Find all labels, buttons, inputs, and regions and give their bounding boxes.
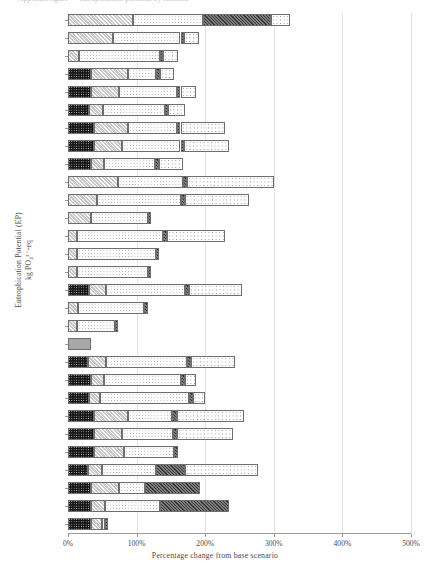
bar-segment-segment-2[interactable] <box>94 122 128 134</box>
bar-segment-segment-3[interactable] <box>91 212 147 224</box>
bar-segment-segment-3[interactable] <box>122 140 180 152</box>
bar-segment-segment-3[interactable] <box>122 428 173 440</box>
bar-segment-segment-2[interactable] <box>91 500 105 512</box>
bar-segment-segment-1[interactable] <box>68 356 88 368</box>
bar-segment-segment-2[interactable] <box>89 284 107 296</box>
bar-segment-segment-5[interactable] <box>184 32 199 44</box>
bar-segment-segment-2[interactable] <box>91 158 105 170</box>
bar-segment-segment-2[interactable] <box>91 518 102 530</box>
bar-segment-segment-3[interactable] <box>128 410 173 422</box>
bar-segment-segment-3[interactable] <box>100 392 189 404</box>
bar-segment-segment-1[interactable] <box>68 464 88 476</box>
bar-segment-segment-3[interactable] <box>104 158 155 170</box>
bar-segment-segment-4[interactable] <box>156 464 184 476</box>
bar-segment-segment-2[interactable] <box>91 374 105 386</box>
bar-segment-segment-3[interactable] <box>124 446 174 458</box>
bar-segment-segment-3[interactable] <box>104 374 181 386</box>
bar-segment-segment-5[interactable] <box>185 464 258 476</box>
bar-segment-segment-4[interactable] <box>156 248 159 260</box>
bar-segment-segment-5[interactable] <box>187 176 275 188</box>
bar-segment-segment-2[interactable] <box>94 140 122 152</box>
bar-segment-segment-3[interactable] <box>106 284 185 296</box>
bar-segment-segment-2[interactable] <box>68 266 77 278</box>
bar-segment-segment-2[interactable] <box>68 14 133 26</box>
bar-segment-single[interactable] <box>68 338 91 350</box>
bar-segment-segment-2[interactable] <box>94 410 128 422</box>
bar-segment-segment-2[interactable] <box>68 32 113 44</box>
bar-segment-segment-3[interactable] <box>106 356 187 368</box>
bar-segment-segment-3[interactable] <box>77 320 115 332</box>
bar-segment-segment-5[interactable] <box>159 158 183 170</box>
bar-segment-segment-1[interactable] <box>68 140 94 152</box>
bar-segment-segment-5[interactable] <box>168 104 184 116</box>
bar-segment-segment-3[interactable] <box>128 122 177 134</box>
bar-segment-segment-3[interactable] <box>78 302 144 314</box>
bar-segment-segment-3[interactable] <box>77 248 156 260</box>
bar-segment-segment-1[interactable] <box>68 446 94 458</box>
bar-segment-segment-1[interactable] <box>68 428 94 440</box>
bar-segment-segment-3[interactable] <box>113 32 180 44</box>
bar-segment-segment-2[interactable] <box>91 86 119 98</box>
bar-segment-segment-1[interactable] <box>68 500 91 512</box>
bar-segment-segment-3[interactable] <box>133 14 203 26</box>
bar-segment-segment-2[interactable] <box>89 104 103 116</box>
bar-segment-segment-4[interactable] <box>203 14 271 26</box>
bar-segment-segment-3[interactable] <box>102 464 157 476</box>
bar-segment-segment-5[interactable] <box>193 392 205 404</box>
bar-segment-segment-5[interactable] <box>271 14 290 26</box>
bar-segment-segment-2[interactable] <box>88 356 107 368</box>
bar-segment-segment-3[interactable] <box>77 266 148 278</box>
bar-segment-segment-4[interactable] <box>148 212 151 224</box>
bar-segment-segment-1[interactable] <box>68 392 89 404</box>
bar-segment-segment-3[interactable] <box>119 482 145 494</box>
bar-segment-segment-2[interactable] <box>68 176 118 188</box>
bar-segment-segment-2[interactable] <box>68 194 97 206</box>
bar-segment-segment-2[interactable] <box>88 464 102 476</box>
bar-segment-segment-2[interactable] <box>68 248 77 260</box>
bar-segment-segment-4[interactable] <box>115 320 118 332</box>
bar-segment-segment-1[interactable] <box>68 284 89 296</box>
bar-segment-segment-1[interactable] <box>68 86 91 98</box>
bar-segment-segment-5[interactable] <box>177 410 244 422</box>
bar-segment-segment-1[interactable] <box>68 374 91 386</box>
bar-segment-segment-5[interactable] <box>181 86 197 98</box>
bar-segment-segment-5[interactable] <box>184 140 229 152</box>
bar-segment-segment-5[interactable] <box>160 68 174 80</box>
bar-segment-segment-2[interactable] <box>68 230 77 242</box>
bar-segment-segment-2[interactable] <box>89 392 101 404</box>
bar-segment-segment-3[interactable] <box>97 194 181 206</box>
bar-segment-segment-4[interactable] <box>144 302 147 314</box>
bar-segment-segment-3[interactable] <box>128 68 157 80</box>
bar-segment-segment-5[interactable] <box>177 428 233 440</box>
bar-segment-segment-4[interactable] <box>174 446 177 458</box>
bar-segment-segment-5[interactable] <box>185 194 249 206</box>
bar-segment-segment-2[interactable] <box>68 302 78 314</box>
bar-segment-segment-5[interactable] <box>167 230 225 242</box>
bar-segment-segment-3[interactable] <box>118 176 183 188</box>
bar-segment-segment-4[interactable] <box>148 266 151 278</box>
bar-segment-segment-3[interactable] <box>77 230 163 242</box>
bar-segment-segment-3[interactable] <box>119 86 177 98</box>
bar-segment-segment-2[interactable] <box>68 50 79 62</box>
bar-segment-segment-2[interactable] <box>68 320 77 332</box>
bar-segment-segment-5[interactable] <box>181 122 226 134</box>
bar-segment-segment-2[interactable] <box>91 482 119 494</box>
bar-segment-segment-4[interactable] <box>160 500 229 512</box>
bar-segment-segment-3[interactable] <box>103 104 165 116</box>
bar-segment-segment-5[interactable] <box>189 284 242 296</box>
bar-segment-segment-1[interactable] <box>68 122 94 134</box>
bar-segment-segment-1[interactable] <box>68 68 91 80</box>
bar-segment-segment-1[interactable] <box>68 482 91 494</box>
bar-segment-segment-4[interactable] <box>105 518 108 530</box>
bar-segment-segment-2[interactable] <box>94 446 124 458</box>
bar-segment-segment-5[interactable] <box>191 356 236 368</box>
bar-segment-segment-3[interactable] <box>79 50 160 62</box>
bar-segment-segment-1[interactable] <box>68 410 94 422</box>
bar-segment-segment-2[interactable] <box>94 428 121 440</box>
bar-segment-segment-1[interactable] <box>68 518 91 530</box>
bar-segment-segment-4[interactable] <box>145 482 201 494</box>
bar-segment-segment-2[interactable] <box>68 212 91 224</box>
bar-segment-segment-2[interactable] <box>91 68 128 80</box>
bar-segment-segment-1[interactable] <box>68 158 91 170</box>
bar-segment-segment-3[interactable] <box>105 500 160 512</box>
